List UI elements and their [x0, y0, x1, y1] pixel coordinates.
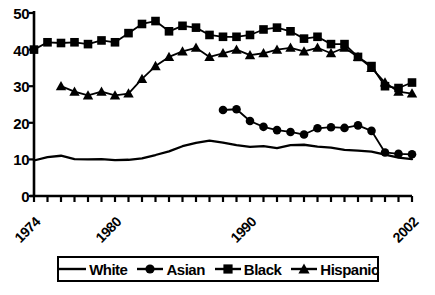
marker-triangle: [231, 44, 241, 53]
marker-square: [273, 23, 282, 32]
marker-square: [178, 22, 187, 31]
marker-square: [97, 36, 106, 45]
marker-square: [165, 27, 174, 36]
legend-marker-triangle-icon: [290, 261, 318, 277]
marker-circle: [354, 121, 363, 130]
marker-circle: [408, 150, 417, 159]
marker-square: [300, 34, 309, 43]
legend-label: White: [89, 262, 127, 277]
y-axis-tick-label: 50: [1, 6, 29, 21]
legend-item-asian[interactable]: Asian: [136, 261, 204, 277]
y-axis-tick-label: 40: [1, 43, 29, 58]
legend-label: Asian: [166, 262, 204, 277]
marker-square: [84, 40, 93, 49]
marker-triangle: [285, 43, 295, 52]
marker-square: [30, 45, 39, 54]
marker-square: [111, 38, 120, 47]
marker-square: [313, 32, 322, 41]
legend-marker-square-icon: [214, 261, 242, 277]
marker-square: [408, 78, 417, 87]
chart-container: 01020304050 1974198019902002 WhiteAsianB…: [0, 0, 435, 295]
marker-circle: [273, 126, 282, 135]
marker-square: [43, 38, 52, 47]
y-axis-tick-label: 0: [1, 189, 29, 204]
legend-label: Hispanic: [320, 262, 379, 277]
marker-triangle: [150, 61, 160, 70]
marker-circle: [340, 124, 349, 133]
marker-circle: [381, 148, 390, 157]
marker-square: [232, 32, 241, 41]
marker-square: [246, 31, 255, 40]
legend-marker-circle-icon: [136, 261, 164, 277]
marker-square: [192, 23, 201, 32]
marker-triangle: [312, 43, 322, 52]
marker-square: [57, 39, 66, 48]
legend-item-hispanic[interactable]: Hispanic: [290, 261, 379, 277]
marker-square: [151, 17, 160, 26]
marker-square: [70, 38, 79, 47]
y-axis-tick-label: 10: [1, 152, 29, 167]
chart-series-group: [30, 17, 418, 161]
marker-circle: [313, 124, 322, 133]
marker-circle: [259, 123, 268, 132]
marker-circle: [300, 130, 309, 139]
marker-circle: [394, 150, 403, 159]
series-white: [34, 141, 412, 161]
marker-triangle: [96, 86, 106, 95]
marker-circle: [367, 127, 376, 136]
legend-item-black[interactable]: Black: [214, 261, 282, 277]
chart-legend: WhiteAsianBlackHispanic: [57, 256, 379, 282]
marker-triangle: [56, 81, 66, 90]
y-axis-tick-label: 30: [1, 79, 29, 94]
marker-square: [327, 40, 336, 49]
series-line-white: [34, 141, 412, 161]
legend-marker-none-icon: [57, 261, 87, 277]
marker-square: [124, 29, 133, 38]
y-axis-tick-label: 20: [1, 116, 29, 131]
marker-circle: [246, 117, 255, 126]
marker-square: [205, 31, 214, 40]
marker-square: [138, 20, 147, 29]
legend-label: Black: [244, 262, 282, 277]
marker-circle: [327, 123, 336, 132]
legend-item-white[interactable]: White: [57, 261, 127, 277]
series-asian: [219, 105, 417, 159]
marker-square: [219, 32, 228, 41]
marker-circle: [232, 105, 241, 114]
series-hispanic: [56, 43, 417, 100]
marker-square: [286, 27, 295, 36]
marker-triangle: [191, 43, 201, 52]
marker-square: [259, 25, 268, 34]
marker-circle: [286, 128, 295, 137]
chart-plot-area: [0, 0, 435, 295]
marker-circle: [219, 106, 228, 115]
